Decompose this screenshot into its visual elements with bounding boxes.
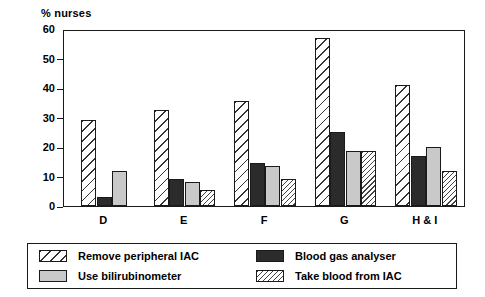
bar: [200, 190, 215, 206]
legend-item-blood-gas-analyser: Blood gas analyser: [256, 250, 396, 262]
bar: [426, 147, 441, 206]
bar: [81, 120, 96, 206]
legend-item-remove-peripheral-iac: Remove peripheral IAC: [39, 250, 199, 262]
legend-label: Use bilirubinometer: [78, 270, 181, 282]
hatch-fine-swatch-icon: [256, 270, 284, 282]
x-tick-label-d: D: [63, 214, 143, 226]
bar: [185, 182, 200, 206]
bar: [346, 151, 361, 206]
y-tick-label-50: 50: [29, 54, 55, 65]
legend-label: Blood gas analyser: [295, 250, 396, 262]
y-axis-title: % nurses: [41, 7, 92, 19]
y-tick-label-30: 30: [29, 113, 55, 124]
x-tick-label-e: E: [143, 214, 223, 226]
bar: [234, 101, 249, 206]
x-tick-label-h-i: H & I: [385, 214, 465, 226]
bar-group-e: [154, 31, 216, 206]
x-tick-label-g: G: [304, 214, 384, 226]
legend-label: Remove peripheral IAC: [78, 250, 199, 262]
y-tick-label-60: 60: [29, 24, 55, 35]
y-tick-label-40: 40: [29, 83, 55, 94]
bar: [315, 38, 330, 206]
bar-group-g: [315, 31, 377, 206]
bar: [361, 151, 376, 206]
bar-group-f: [234, 31, 296, 206]
bar: [395, 85, 410, 206]
y-tick-label-0: 0: [29, 201, 55, 212]
bar-chart: % nurses 0102030405060 DEFGH & I Remove …: [0, 0, 485, 297]
y-tick-label-20: 20: [29, 142, 55, 153]
bar: [411, 156, 426, 206]
bar: [265, 166, 280, 206]
bar-group-d: [81, 31, 127, 206]
hatch-wide-swatch-icon: [39, 250, 67, 262]
solid-dark-swatch-icon: [256, 250, 284, 262]
bar: [97, 197, 112, 206]
bar-group-h-i: [395, 31, 457, 206]
x-tick-label-f: F: [224, 214, 304, 226]
y-tick-label-10: 10: [29, 172, 55, 183]
bar: [250, 163, 265, 206]
bar: [154, 110, 169, 206]
bar: [281, 179, 296, 206]
bar: [112, 171, 127, 206]
solid-light-swatch-icon: [39, 270, 67, 282]
bar: [330, 132, 345, 206]
legend-item-use-bilirubinometer: Use bilirubinometer: [39, 270, 181, 282]
legend-label: Take blood from IAC: [295, 270, 402, 282]
legend-item-take-blood-from-iac: Take blood from IAC: [256, 270, 402, 282]
plot-area: [63, 30, 465, 207]
bar: [169, 179, 184, 206]
legend: Remove peripheral IAC Use bilirubinomete…: [27, 243, 457, 289]
bar: [442, 171, 457, 206]
